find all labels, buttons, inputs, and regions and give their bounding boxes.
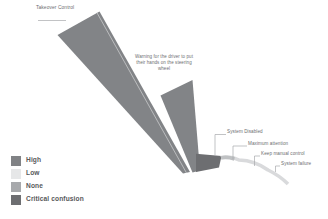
wedge-system-disabled[interactable]: [196, 154, 222, 172]
annotation-keep-manual-control: Keep manual control: [261, 151, 305, 157]
legend-label-low: Low: [26, 170, 40, 177]
leader-line-system-disabled: [215, 135, 226, 156]
arc-band-none-attention[interactable]: [221, 157, 235, 159]
annotation-system-failure: System failure: [281, 161, 311, 167]
legend-swatch-high: [11, 156, 21, 166]
legend-swatch-critical-confusion: [11, 195, 21, 205]
legend-item-low[interactable]: Low: [11, 167, 141, 180]
legend-label-none: None: [26, 183, 43, 190]
radial-chart-figure: Takeover Control Warning for the driver …: [0, 0, 328, 219]
legend-swatch-low: [11, 169, 21, 179]
annotation-maximum-attention: Maximum attention: [248, 141, 288, 147]
annotation-warning-hands-on-wheel: Warning for the driver to put their hand…: [133, 54, 195, 72]
annotation-system-disabled: System Disabled: [227, 129, 263, 135]
leader-line-system-failure: [276, 166, 281, 172]
annotation-takeover-control: Takeover Control: [36, 5, 74, 11]
legend-item-high[interactable]: High: [11, 154, 141, 167]
legend-item-critical-confusion[interactable]: Critical confusion: [11, 193, 141, 206]
legend-label-high: High: [26, 157, 41, 164]
legend-item-none[interactable]: None: [11, 180, 141, 193]
legend-swatch-none: [11, 182, 21, 192]
legend-label-critical-confusion: Critical confusion: [26, 196, 84, 203]
chart-legend: High Low None Critical confusion: [11, 154, 141, 206]
